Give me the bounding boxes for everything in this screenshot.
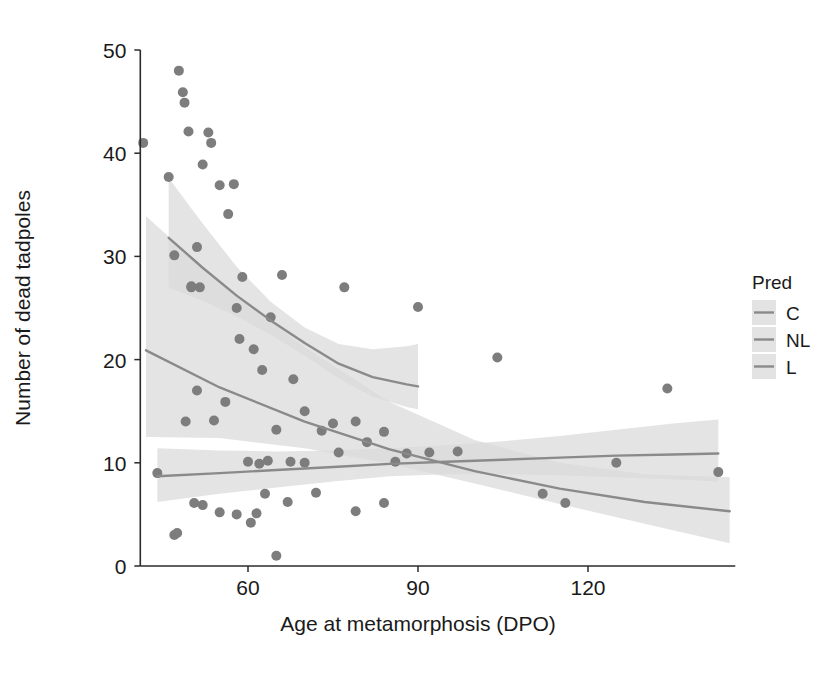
data-point: [169, 250, 179, 260]
data-point: [246, 518, 256, 528]
data-point: [713, 467, 723, 477]
data-point: [198, 160, 208, 170]
data-point: [237, 272, 247, 282]
data-point: [334, 447, 344, 457]
x-axis-title: Age at metamorphosis (DPO): [280, 612, 555, 635]
data-point: [186, 281, 196, 291]
data-point: [220, 397, 230, 407]
x-tick-label: 90: [406, 576, 429, 599]
data-point: [300, 458, 310, 468]
legend-label: NL: [786, 330, 810, 351]
data-point: [351, 417, 361, 427]
data-point: [172, 528, 182, 538]
data-point: [249, 344, 259, 354]
data-point: [209, 415, 219, 425]
chart-canvas: 6090120 01020304050 Age at metamorphosis…: [0, 0, 835, 673]
data-point: [195, 282, 205, 292]
data-point: [192, 386, 202, 396]
legend: Pred CNLL: [752, 272, 810, 379]
data-point: [206, 138, 216, 148]
legend-label: C: [786, 303, 800, 324]
data-point: [215, 507, 225, 517]
confidence-bands: [146, 178, 730, 543]
data-point: [243, 457, 253, 467]
data-point: [300, 406, 310, 416]
data-point: [271, 551, 281, 561]
data-point: [492, 353, 502, 363]
data-point: [538, 489, 548, 499]
data-point: [223, 209, 233, 219]
data-point: [198, 500, 208, 510]
data-point: [260, 489, 270, 499]
data-point: [178, 87, 188, 97]
data-point: [560, 498, 570, 508]
data-point: [254, 459, 264, 469]
data-point: [351, 506, 361, 516]
legend-label: L: [786, 357, 797, 378]
data-point: [277, 270, 287, 280]
data-point: [180, 98, 190, 108]
y-tick-label: 30: [103, 245, 126, 268]
data-point: [453, 446, 463, 456]
data-point: [611, 458, 621, 468]
data-point: [184, 127, 194, 137]
data-point: [192, 242, 202, 252]
data-point: [229, 179, 239, 189]
y-tick-label: 50: [103, 39, 126, 62]
data-point: [252, 508, 262, 518]
data-point: [271, 425, 281, 435]
data-point: [379, 498, 389, 508]
data-point: [283, 497, 293, 507]
figure-scatter-mortality: 6090120 01020304050 Age at metamorphosis…: [0, 0, 835, 673]
data-point: [311, 488, 321, 498]
data-point: [263, 456, 273, 466]
data-point: [390, 457, 400, 467]
legend-item-c[interactable]: C: [752, 300, 800, 325]
data-point: [189, 498, 199, 508]
data-point: [288, 374, 298, 384]
x-tick-label: 120: [570, 576, 605, 599]
data-point: [181, 417, 191, 427]
data-point: [203, 128, 213, 138]
y-tick-label: 20: [103, 349, 126, 372]
data-point: [424, 447, 434, 457]
y-tick-label: 40: [103, 142, 126, 165]
data-point: [379, 427, 389, 437]
y-axis-ticks: 01020304050: [103, 39, 140, 578]
data-point: [235, 334, 245, 344]
legend-item-nl[interactable]: NL: [752, 327, 810, 352]
data-point: [232, 303, 242, 313]
data-point: [174, 66, 184, 76]
x-tick-label: 60: [236, 576, 259, 599]
data-point: [215, 180, 225, 190]
legend-items: CNLL: [752, 300, 810, 379]
data-point: [257, 365, 267, 375]
legend-title: Pred: [752, 272, 792, 293]
legend-item-l[interactable]: L: [752, 354, 797, 379]
y-tick-label: 10: [103, 452, 126, 475]
x-axis-ticks: 6090120: [236, 566, 605, 599]
data-point: [339, 282, 349, 292]
data-point: [662, 384, 672, 394]
data-point: [413, 302, 423, 312]
y-axis-title: Number of dead tadpoles: [11, 190, 34, 426]
data-point: [164, 172, 174, 182]
data-point: [286, 457, 296, 467]
data-point: [328, 419, 338, 429]
data-point: [232, 509, 242, 519]
y-tick-label: 0: [115, 555, 127, 578]
